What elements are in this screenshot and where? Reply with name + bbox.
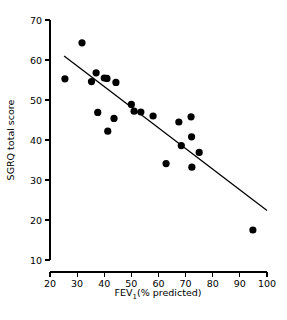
x-axis-ticks	[50, 272, 267, 277]
data-point	[137, 108, 144, 115]
data-point	[178, 142, 185, 149]
data-point	[187, 113, 194, 120]
y-tick-label-20: 20	[30, 215, 42, 226]
y-tick-label-60: 60	[30, 55, 42, 66]
data-point	[162, 160, 169, 167]
data-point	[249, 226, 256, 233]
data-point	[88, 78, 95, 85]
data-point	[104, 128, 111, 135]
scatter-plot-figure: 10203040506070 2030405060708090100 SGRQ …	[0, 0, 287, 320]
regression-line	[64, 56, 267, 210]
y-axis-tick-labels: 10203040506070	[30, 15, 42, 266]
data-point	[110, 115, 117, 122]
x-axis-title: FEV1(% predicted)	[115, 287, 202, 301]
data-point	[196, 149, 203, 156]
x-tick-label-90: 90	[234, 278, 246, 289]
y-tick-label-40: 40	[30, 135, 42, 146]
data-point	[94, 109, 101, 116]
x-tick-label-40: 40	[98, 278, 110, 289]
data-point	[188, 133, 195, 140]
data-point	[112, 79, 119, 86]
data-point	[61, 75, 68, 82]
y-tick-label-50: 50	[30, 95, 42, 106]
data-point	[128, 101, 135, 108]
y-axis-title: SGRQ total score	[5, 99, 16, 180]
x-tick-label-30: 30	[71, 278, 83, 289]
y-tick-label-30: 30	[30, 175, 42, 186]
x-tick-label-80: 80	[207, 278, 219, 289]
y-axis-ticks	[45, 20, 50, 260]
y-tick-label-10: 10	[30, 255, 42, 266]
data-point-group	[61, 39, 256, 233]
data-point	[93, 69, 100, 76]
x-tick-label-100: 100	[258, 278, 276, 289]
data-point	[130, 108, 137, 115]
data-point	[103, 75, 110, 82]
data-point	[188, 164, 195, 171]
y-tick-label-70: 70	[30, 15, 42, 26]
data-point	[175, 118, 182, 125]
plot-canvas: 10203040506070 2030405060708090100 SGRQ …	[0, 0, 287, 320]
data-point	[149, 112, 156, 119]
x-tick-label-20: 20	[44, 278, 56, 289]
data-point	[78, 39, 85, 46]
